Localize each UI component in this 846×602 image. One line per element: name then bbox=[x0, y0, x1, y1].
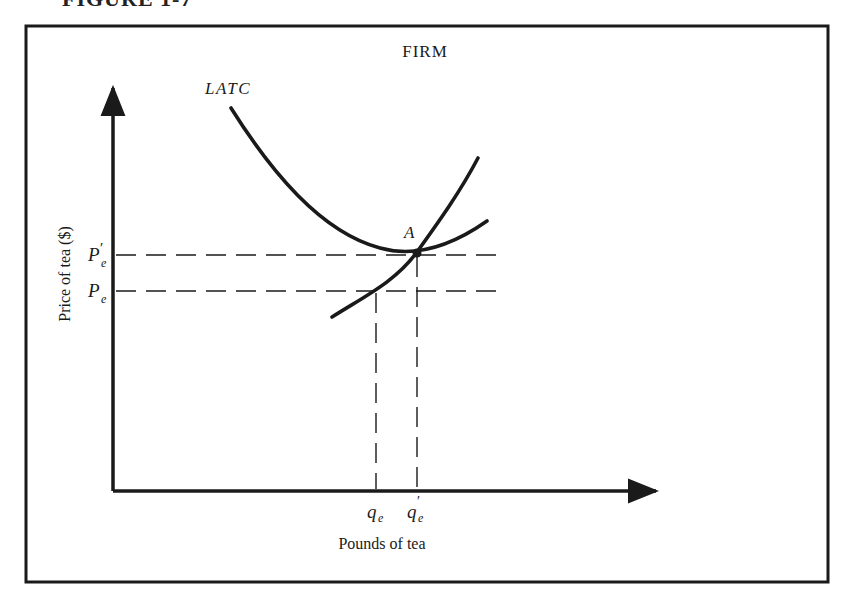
y-tick-p-e: P e bbox=[87, 280, 107, 306]
p-e-prime-main: P bbox=[87, 244, 100, 265]
p-e-main: P bbox=[87, 280, 100, 301]
p-e-prime-mark: ′ bbox=[100, 240, 103, 256]
q-e-main: q bbox=[367, 501, 377, 522]
reference-lines bbox=[116, 255, 505, 489]
p-e-sub: e bbox=[101, 292, 107, 306]
x-axis-title: Pounds of tea bbox=[338, 535, 425, 552]
x-tick-q-e-prime: q e ′ bbox=[407, 494, 424, 525]
x-tick-q-e: q e bbox=[367, 501, 384, 525]
panel-title: FIRM bbox=[402, 42, 448, 61]
q-e-prime-mark: ′ bbox=[417, 494, 420, 509]
q-e-prime-main: q bbox=[407, 501, 417, 522]
p-e-prime-sub: e bbox=[101, 256, 107, 270]
point-a-label: A bbox=[403, 223, 415, 242]
y-axis-title: Price of tea ($) bbox=[56, 226, 74, 322]
latc-label: LATC bbox=[204, 79, 251, 98]
point-a-marker bbox=[413, 249, 422, 258]
latc-curve bbox=[231, 108, 487, 251]
y-tick-p-e-prime: P e ′ bbox=[87, 240, 107, 270]
chart-frame bbox=[26, 26, 828, 582]
q-e-prime-sub: e bbox=[418, 511, 424, 525]
firm-chart: FIRM A LATC P e ′ P e q e q e ′ Pounds o… bbox=[0, 0, 846, 602]
q-e-sub: e bbox=[378, 511, 384, 525]
